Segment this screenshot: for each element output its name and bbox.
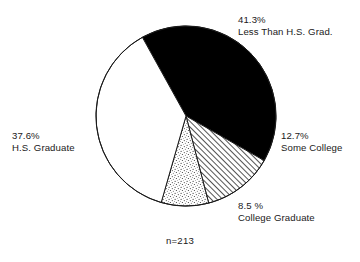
slice-percent-some-college: 12.7%: [281, 130, 342, 142]
pie-chart: 41.3% Less Than H.S. Grad. 12.7% Some Co…: [0, 0, 360, 262]
slice-percent-less-than-hs-grad: 41.3%: [238, 14, 333, 26]
slice-label-hs-graduate: 37.6% H.S. Graduate: [12, 130, 75, 154]
slice-percent-college-graduate: 8.5 %: [238, 200, 315, 212]
slice-category-college-graduate: College Graduate: [238, 212, 315, 224]
slice-category-less-than-hs-grad: Less Than H.S. Grad.: [238, 26, 333, 38]
sample-size-note: n=213: [0, 235, 360, 246]
slice-label-less-than-hs-grad: 41.3% Less Than H.S. Grad.: [238, 14, 333, 38]
slice-label-some-college: 12.7% Some College: [281, 130, 342, 154]
slice-percent-hs-graduate: 37.6%: [12, 130, 75, 142]
slice-label-college-graduate: 8.5 % College Graduate: [238, 200, 315, 224]
slice-category-hs-graduate: H.S. Graduate: [12, 142, 75, 154]
slice-category-some-college: Some College: [281, 142, 342, 154]
